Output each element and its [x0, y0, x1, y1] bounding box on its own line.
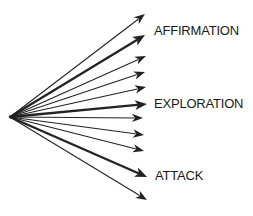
label-affirmation: AFFIRMATION	[154, 24, 239, 37]
arrow-shaft	[10, 117, 134, 118]
arrow-shaft	[10, 117, 139, 195]
arrowhead-icon	[132, 35, 145, 46]
label-attack: ATTACK	[155, 169, 203, 182]
arrowhead-icon	[134, 14, 145, 24]
arrow-shaft	[10, 40, 136, 117]
arrowhead-icon	[135, 191, 147, 200]
arrow	[10, 117, 147, 200]
label-exploration: EXPLORATION	[154, 97, 243, 110]
arrow-bold	[10, 35, 145, 117]
arrow	[10, 117, 144, 138]
arrow-bold	[10, 100, 147, 117]
